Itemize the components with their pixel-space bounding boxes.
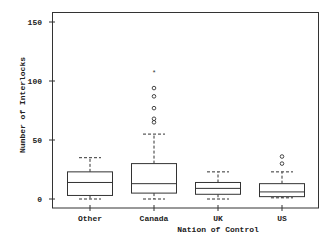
boxplot-chart: 050100150 OtherCanadaUKUS * Nation of Co… (0, 0, 335, 242)
y-tick-label: 0 (37, 195, 42, 204)
x-tick-label-us: US (277, 214, 287, 223)
outlier-point (152, 106, 156, 110)
x-axis-title: Nation of Control (177, 225, 259, 234)
iqr-box (68, 172, 113, 196)
y-tick-label: 50 (32, 136, 42, 145)
outlier-point (152, 86, 156, 90)
box-us (260, 155, 305, 198)
iqr-box (260, 184, 305, 197)
y-axis-title: Number of Interlocks (18, 57, 27, 153)
outlier-point (280, 162, 284, 166)
y-axis: 050100150 (28, 18, 55, 204)
outlier-point (280, 155, 284, 159)
outlier-point (152, 121, 156, 125)
y-tick-label: 100 (28, 77, 43, 86)
box-series: * (68, 69, 305, 199)
box-other (68, 158, 113, 199)
iqr-box (132, 164, 177, 194)
box-uk (196, 172, 241, 199)
y-tick-label: 150 (28, 18, 43, 27)
x-tick-label-canada: Canada (140, 214, 169, 223)
outlier-point (152, 117, 156, 121)
x-tick-label-other: Other (78, 214, 102, 223)
x-tick-label-uk: UK (213, 214, 223, 223)
extreme-point: * (152, 69, 156, 77)
outlier-point (152, 95, 156, 99)
box-canada: * (132, 69, 177, 199)
